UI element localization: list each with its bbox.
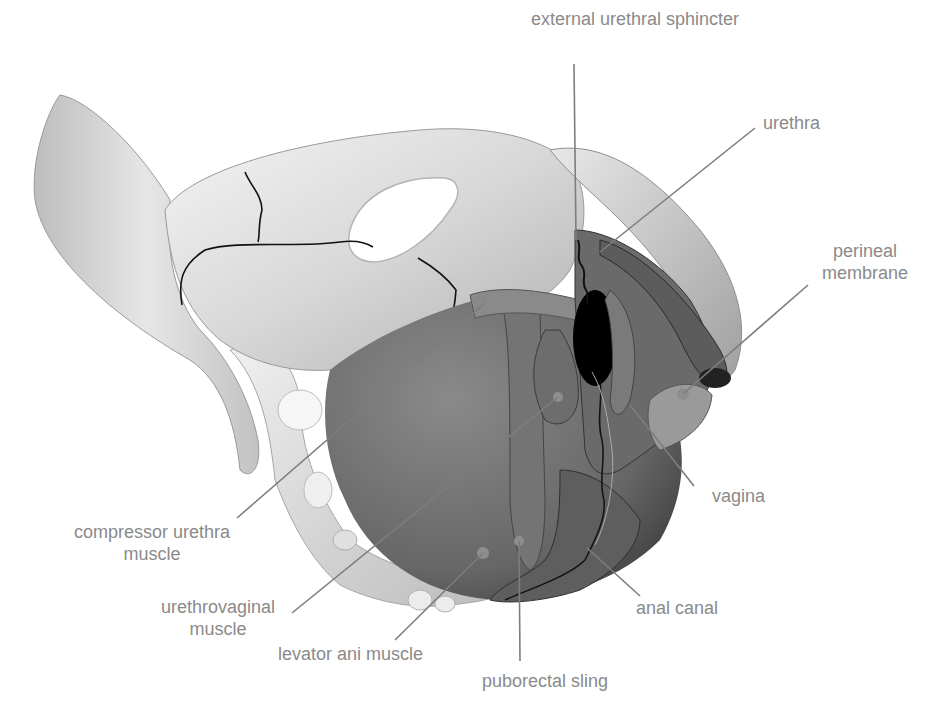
label-compressor-urethra-line2: muscle <box>60 543 244 565</box>
label-levator-ani-muscle: levator ani muscle <box>278 643 423 665</box>
leader-puborectal-sling <box>519 541 520 661</box>
label-urethra: urethra <box>763 112 820 134</box>
label-perineal-membrane: perineal membrane <box>815 240 915 284</box>
label-external-urethral-sphincter: external urethral sphincter <box>531 8 739 30</box>
label-perineal-membrane-line1: perineal <box>815 240 915 262</box>
label-urethrovaginal-line2: muscle <box>150 618 286 640</box>
label-anal-canal: anal canal <box>636 597 718 619</box>
label-urethrovaginal-muscle: urethrovaginal muscle <box>150 596 286 640</box>
pelvic-floor-illustration <box>0 0 933 723</box>
label-vagina: vagina <box>712 485 765 507</box>
label-urethrovaginal-line1: urethrovaginal <box>150 596 286 618</box>
label-puborectal-sling: puborectal sling <box>482 670 608 692</box>
label-perineal-membrane-line2: membrane <box>815 262 915 284</box>
label-compressor-urethra-muscle: compressor urethra muscle <box>60 521 244 565</box>
label-compressor-urethra-line1: compressor urethra <box>60 521 244 543</box>
